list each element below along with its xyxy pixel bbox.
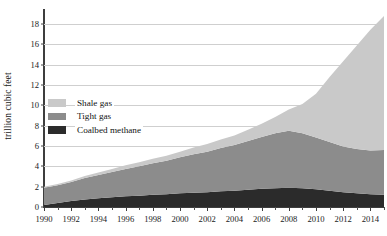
x-tick-minor — [330, 207, 331, 210]
x-tick-minor — [194, 207, 195, 210]
legend-item: Tight gas — [48, 110, 198, 124]
y-axis-title-text: trillion cubic feet — [3, 72, 13, 139]
x-tick-major — [98, 207, 99, 211]
x-tick-major — [153, 207, 154, 211]
legend-swatch — [48, 113, 66, 121]
x-tick-minor — [139, 207, 140, 210]
x-tick-label: 2002 — [199, 214, 216, 224]
x-tick-major — [370, 207, 371, 211]
x-tick-minor — [302, 207, 303, 210]
x-tick-minor — [166, 207, 167, 210]
y-axis-title: trillion cubic feet — [0, 0, 16, 212]
x-tick-major — [71, 207, 72, 211]
x-tick-major — [316, 207, 317, 211]
chart-screenshot: trillion cubic feet 024681012141618 1990… — [0, 0, 387, 236]
x-tick-major — [44, 207, 45, 211]
x-tick-label: 1994 — [90, 214, 107, 224]
x-tick-minor — [275, 207, 276, 210]
x-tick-label: 2010 — [307, 214, 324, 224]
x-tick-minor — [357, 207, 358, 210]
x-tick-label: 2004 — [226, 214, 243, 224]
x-tick-label: 2008 — [280, 214, 297, 224]
x-tick-label: 1998 — [144, 214, 161, 224]
x-tick-minor — [248, 207, 249, 210]
x-tick-minor — [384, 207, 385, 210]
x-tick-major — [234, 207, 235, 211]
x-tick-minor — [58, 207, 59, 210]
x-tick-major — [343, 207, 344, 211]
y-tick-label: 14 — [30, 60, 39, 70]
legend-label: Shale gas — [75, 98, 114, 108]
y-tick-label: 16 — [30, 39, 39, 49]
y-tick-label: 18 — [30, 19, 39, 29]
x-tick-minor — [85, 207, 86, 210]
x-tick-major — [289, 207, 290, 211]
y-tick-label: 12 — [30, 80, 39, 90]
x-tick-minor — [112, 207, 113, 210]
x-tick-minor — [221, 207, 222, 210]
x-tick-label: 1992 — [63, 214, 80, 224]
y-tick-label: 2 — [35, 182, 39, 192]
legend-item: Shale gas — [48, 96, 198, 110]
y-tick-label: 4 — [35, 161, 39, 171]
x-tick-major — [207, 207, 208, 211]
x-tick-label: 1996 — [117, 214, 134, 224]
y-tick-label: 0 — [35, 202, 39, 212]
x-tick-major — [180, 207, 181, 211]
x-tick-label: 2006 — [253, 214, 270, 224]
x-tick-major — [126, 207, 127, 211]
y-tick-label: 6 — [35, 141, 39, 151]
chart-legend: Shale gasTight gasCoalbed methane — [48, 96, 198, 137]
y-tick-label: 10 — [30, 100, 39, 110]
legend-swatch — [48, 126, 66, 134]
legend-label: Coalbed methane — [75, 125, 143, 135]
legend-swatch — [48, 99, 66, 107]
x-tick-label: 2012 — [335, 214, 352, 224]
x-tick-major — [262, 207, 263, 211]
legend-label: Tight gas — [75, 111, 113, 121]
x-tick-label: 1990 — [35, 214, 52, 224]
x-tick-label: 2014 — [362, 214, 379, 224]
x-tick-label: 2000 — [171, 214, 188, 224]
legend-item: Coalbed methane — [48, 123, 198, 137]
y-tick-label: 8 — [35, 121, 39, 131]
